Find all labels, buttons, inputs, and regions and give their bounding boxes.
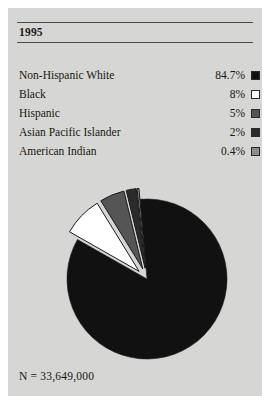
legend-label: American Indian (17, 145, 221, 158)
legend-label: Black (17, 88, 230, 101)
legend-value: 84.7% (215, 69, 251, 82)
swatch-hispanic (251, 109, 260, 118)
swatch-american-indian (251, 147, 260, 156)
swatch-asian-pacific-islander (251, 128, 260, 137)
legend-label: Asian Pacific Islander (17, 126, 230, 139)
page-title: 1995 (17, 23, 253, 42)
legend-item-asian-pacific-islander: Asian Pacific Islander 2% (17, 123, 260, 142)
legend-label: Hispanic (17, 107, 230, 120)
chart-header: 1995 (17, 22, 253, 43)
legend-item-american-indian: American Indian 0.4% (17, 142, 260, 161)
legend-value: 0.4% (221, 145, 251, 158)
pie-chart (8, 178, 262, 378)
legend-value: 8% (230, 88, 251, 101)
figure-panel: 1995 Non-Hispanic White 84.7% Black 8% H… (8, 8, 262, 396)
legend-label: Non-Hispanic White (17, 69, 215, 82)
chart-legend: Non-Hispanic White 84.7% Black 8% Hispan… (17, 66, 260, 161)
pie-chart-svg (8, 178, 262, 378)
sample-size-label: N = 33,649,000 (19, 370, 94, 382)
legend-item-non-hispanic-white: Non-Hispanic White 84.7% (17, 66, 260, 85)
legend-item-black: Black 8% (17, 85, 260, 104)
swatch-non-hispanic-white (251, 71, 260, 80)
legend-value: 2% (230, 126, 251, 139)
legend-item-hispanic: Hispanic 5% (17, 104, 260, 123)
legend-value: 5% (230, 107, 251, 120)
header-rule-bottom (17, 42, 253, 43)
swatch-black (251, 90, 260, 99)
